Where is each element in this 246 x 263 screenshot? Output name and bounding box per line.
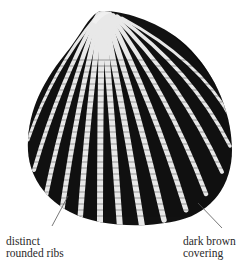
label-dark-brown-covering: dark brown covering [183,235,236,259]
label-ribs-line2: rounded ribs [6,247,64,259]
label-covering-line2: covering [183,247,236,259]
shell-diagram: distinct rounded ribs dark brown coverin… [0,0,246,263]
label-distinct-rounded-ribs: distinct rounded ribs [6,235,64,259]
label-covering-line1: dark brown [183,235,236,247]
leader-line-covering [198,203,222,228]
shell-illustration [0,0,246,263]
label-ribs-line1: distinct [6,235,64,247]
